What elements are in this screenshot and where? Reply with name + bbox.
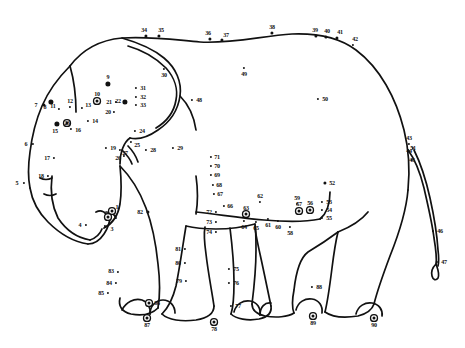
- elephant-outline-svg: [0, 0, 465, 348]
- elephant-body-outline: [29, 34, 439, 321]
- dot-to-dot-page: 1234567891011121314151617181920212223242…: [0, 0, 465, 348]
- elephant-artwork: [0, 0, 465, 348]
